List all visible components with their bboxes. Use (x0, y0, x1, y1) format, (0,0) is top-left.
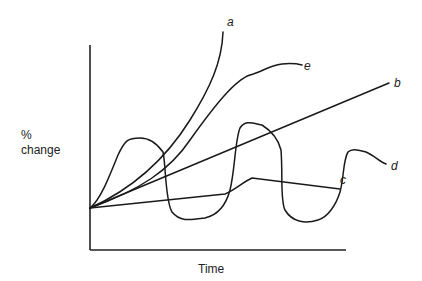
curve-label-c: c (340, 173, 346, 187)
curve-label-b: b (394, 76, 401, 90)
curve-label-d: d (391, 159, 398, 173)
curve-e (90, 64, 302, 208)
curve-label-a: a (227, 15, 234, 29)
curve-a (90, 32, 223, 208)
y-axis-label-symbol: % (21, 128, 32, 142)
x-axis-label: Time (198, 262, 225, 276)
curve-label-e: e (304, 59, 311, 73)
curve-b (90, 83, 389, 208)
y-axis-label: change (21, 143, 61, 157)
change-over-time-diagram: % change Time a e b c d (0, 0, 422, 281)
